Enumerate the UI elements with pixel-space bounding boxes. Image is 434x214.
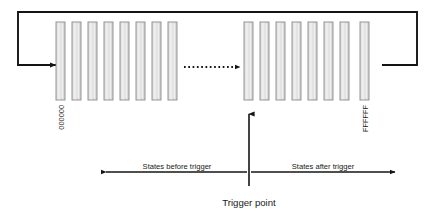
trigger-point-label: Trigger point xyxy=(222,197,276,208)
memory-bar xyxy=(152,22,161,100)
memory-bar xyxy=(104,22,113,100)
start-state-label: 000000 xyxy=(57,105,66,130)
memory-bar xyxy=(120,22,129,100)
memory-bars-left-group xyxy=(56,22,177,100)
memory-bar xyxy=(168,22,177,100)
after-trigger-label: States after trigger xyxy=(292,162,355,171)
memory-bar xyxy=(72,22,81,100)
diagram-canvas: 000000 FFFFFF States before trigger Stat… xyxy=(0,0,434,214)
memory-bar xyxy=(56,22,65,100)
memory-bar xyxy=(276,22,285,100)
memory-bar xyxy=(340,22,349,100)
memory-bar xyxy=(308,22,317,100)
memory-bar xyxy=(324,22,333,100)
memory-bar xyxy=(292,22,301,100)
memory-bar xyxy=(244,22,253,100)
memory-bars-right-group xyxy=(244,22,369,100)
memory-bar xyxy=(260,22,269,100)
memory-bar xyxy=(360,22,369,100)
memory-bar xyxy=(88,22,97,100)
end-state-label: FFFFFF xyxy=(361,105,370,133)
memory-bar xyxy=(136,22,145,100)
before-trigger-label: States before trigger xyxy=(143,162,212,171)
memory-trigger-diagram: 000000 FFFFFF States before trigger Stat… xyxy=(0,0,434,214)
